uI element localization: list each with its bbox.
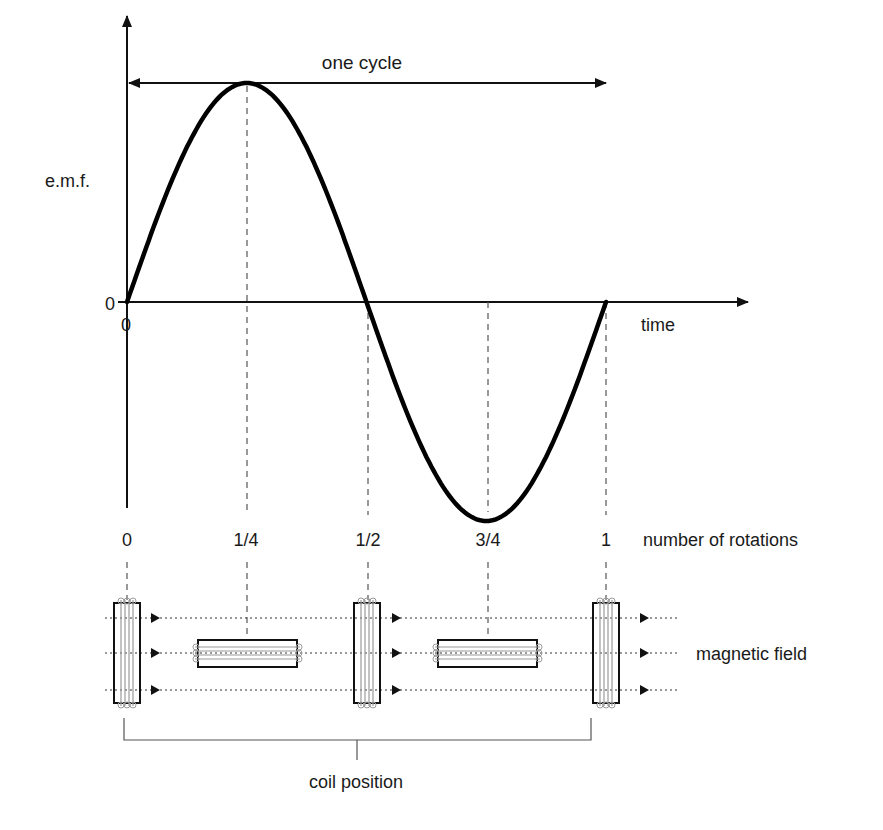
x-origin-label: 0 (121, 316, 131, 334)
field-arrowheads (151, 613, 649, 695)
rotation-tick-half: 1/2 (355, 531, 380, 549)
y-axis-label: e.m.f. (45, 172, 90, 190)
rotation-tick-1: 1 (601, 531, 611, 549)
coil-position-label: coil position (309, 773, 403, 791)
rotation-tick-0: 0 (122, 531, 132, 549)
y-origin-label: 0 (105, 295, 115, 313)
coil-position-bracket (124, 718, 591, 760)
dashed-guides (127, 86, 606, 638)
magnetic-field-label: magnetic field (696, 645, 807, 663)
rotation-tick-three-quarter: 3/4 (475, 531, 500, 549)
rotation-tick-quarter: 1/4 (233, 531, 258, 549)
x-axis-label: time (641, 316, 675, 334)
diagram-canvas (0, 0, 883, 830)
one-cycle-label: one cycle (322, 53, 402, 72)
emf-ac-generator-diagram: one cycle e.m.f. 0 0 time 0 1/4 1/2 3/4 … (0, 0, 883, 830)
rotation-axis-label: number of rotations (643, 531, 798, 549)
